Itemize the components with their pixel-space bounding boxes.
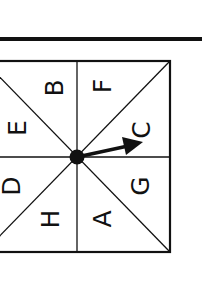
section-label-c: C	[127, 115, 157, 145]
section-label-g: G	[126, 171, 156, 201]
section-label-a: A	[88, 204, 118, 234]
spinner-center-dot	[70, 150, 85, 165]
spinner-arrow-shaft	[77, 146, 128, 157]
section-label-b: B	[40, 73, 70, 103]
section-label-h: H	[36, 204, 66, 234]
section-label-f: F	[88, 71, 118, 101]
section-label-e: E	[3, 113, 33, 143]
section-label-d: D	[0, 171, 27, 201]
